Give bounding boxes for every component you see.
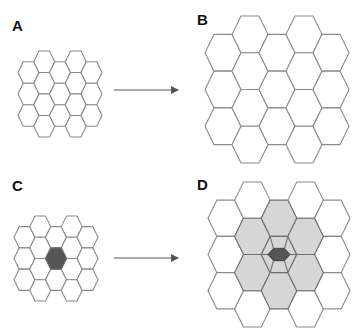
- hex-diagram: [0, 0, 360, 335]
- hex-grid-panel-c: [14, 216, 98, 301]
- hex-cell: [81, 105, 102, 127]
- center-hex-cell: [46, 248, 67, 269]
- hex-grid-panel-d: [208, 182, 350, 327]
- hex-grid-panel-a: [18, 51, 102, 137]
- hex-cell: [77, 227, 98, 248]
- hex-cell: [81, 62, 102, 84]
- hex-cell: [81, 83, 102, 105]
- hex-cell: [77, 248, 98, 269]
- shrunken-center-hex: [268, 248, 290, 260]
- hex-grid-panel-b: [205, 16, 349, 163]
- hex-cell: [77, 269, 98, 290]
